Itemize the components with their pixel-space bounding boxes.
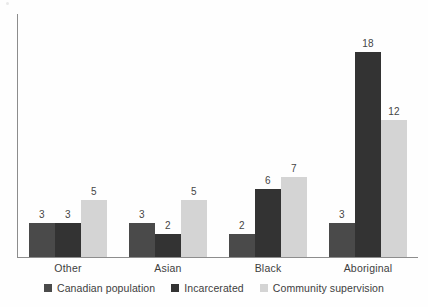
bar-value-label: 18 bbox=[362, 38, 374, 49]
bar-value-label: 6 bbox=[265, 175, 271, 186]
bar-item: 2 bbox=[155, 14, 181, 257]
legend-item-2[interactable]: Community supervision bbox=[260, 282, 384, 294]
bar-group-black: 267 bbox=[218, 14, 318, 257]
bar-chart: 33532526731812 OtherAsianBlackAboriginal… bbox=[0, 0, 428, 307]
bar-item: 3 bbox=[129, 14, 155, 257]
bar-item: 3 bbox=[329, 14, 355, 257]
bar-item: 12 bbox=[381, 14, 407, 257]
bar bbox=[281, 177, 307, 257]
legend-item-1[interactable]: Incarcerated bbox=[171, 282, 244, 294]
bar-value-label: 3 bbox=[339, 209, 345, 220]
bar-item: 5 bbox=[181, 14, 207, 257]
legend-label: Incarcerated bbox=[184, 282, 244, 294]
bar bbox=[229, 234, 255, 257]
bar-item: 7 bbox=[281, 14, 307, 257]
bar bbox=[29, 223, 55, 257]
bar bbox=[381, 120, 407, 257]
bar-group-asian: 325 bbox=[118, 14, 218, 257]
legend-swatch-icon bbox=[171, 284, 179, 292]
bar-groups: 33532526731812 bbox=[18, 14, 418, 257]
bar bbox=[55, 223, 81, 257]
bar bbox=[355, 52, 381, 257]
legend-label: Community supervision bbox=[273, 282, 384, 294]
x-axis-label-aboriginal: Aboriginal bbox=[318, 262, 418, 274]
legend-label: Canadian population bbox=[57, 282, 155, 294]
bar-value-label: 2 bbox=[165, 220, 171, 231]
legend-swatch-icon bbox=[260, 284, 268, 292]
bar bbox=[81, 200, 107, 257]
bar-item: 18 bbox=[355, 14, 381, 257]
bar-value-label: 12 bbox=[388, 106, 400, 117]
chart-legend: Canadian populationIncarceratedCommunity… bbox=[0, 282, 428, 294]
bar-item: 5 bbox=[81, 14, 107, 257]
bar-value-label: 3 bbox=[139, 209, 145, 220]
bar-value-label: 7 bbox=[291, 163, 297, 174]
x-axis-line bbox=[17, 257, 418, 258]
bar-group-aboriginal: 31812 bbox=[318, 14, 418, 257]
legend-item-0[interactable]: Canadian population bbox=[44, 282, 155, 294]
bar-item: 2 bbox=[229, 14, 255, 257]
bar bbox=[329, 223, 355, 257]
bar bbox=[181, 200, 207, 257]
x-axis-label-other: Other bbox=[18, 262, 118, 274]
plot-area: 33532526731812 bbox=[17, 14, 418, 258]
bar-group-other: 335 bbox=[18, 14, 118, 257]
bar-item: 3 bbox=[55, 14, 81, 257]
x-axis-label-asian: Asian bbox=[118, 262, 218, 274]
x-axis-label-black: Black bbox=[218, 262, 318, 274]
legend-swatch-icon bbox=[44, 284, 52, 292]
bar-item: 6 bbox=[255, 14, 281, 257]
bar-value-label: 3 bbox=[65, 209, 71, 220]
x-axis-labels: OtherAsianBlackAboriginal bbox=[18, 262, 418, 274]
bar bbox=[155, 234, 181, 257]
bar bbox=[129, 223, 155, 257]
bar bbox=[255, 189, 281, 257]
bar-value-label: 5 bbox=[191, 186, 197, 197]
bar-value-label: 3 bbox=[39, 209, 45, 220]
bar-value-label: 5 bbox=[91, 186, 97, 197]
scan-artifact bbox=[6, 2, 9, 5]
bar-item: 3 bbox=[29, 14, 55, 257]
bar-value-label: 2 bbox=[239, 220, 245, 231]
